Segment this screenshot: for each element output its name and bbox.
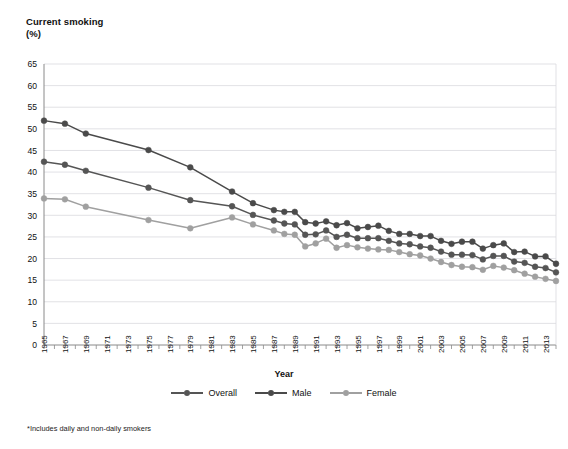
legend-item-female[interactable]: Female xyxy=(330,388,397,398)
data-point-overall xyxy=(229,203,235,209)
series-line-female xyxy=(44,198,556,281)
data-point-female xyxy=(386,247,392,253)
data-point-male xyxy=(229,189,235,195)
data-point-overall xyxy=(428,245,434,251)
data-point-male xyxy=(375,223,381,229)
data-point-male xyxy=(386,228,392,234)
x-tick-label: 2003 xyxy=(437,335,446,353)
x-tick-label: 1979 xyxy=(186,335,195,353)
data-point-overall xyxy=(438,249,444,255)
data-point-overall xyxy=(292,221,298,227)
data-point-overall xyxy=(396,241,402,247)
x-tick-label: 2011 xyxy=(521,335,530,353)
data-point-male xyxy=(438,238,444,244)
data-point-male xyxy=(187,164,193,170)
y-tick-label: 35 xyxy=(27,189,37,199)
x-tick-label: 1999 xyxy=(395,335,404,353)
data-point-female xyxy=(438,259,444,265)
data-point-overall xyxy=(459,252,465,258)
x-tick-label: 1987 xyxy=(270,335,279,353)
data-point-male xyxy=(522,249,528,255)
legend-label: Female xyxy=(367,388,397,398)
data-point-female xyxy=(62,196,68,202)
y-tick-label: 30 xyxy=(27,211,37,221)
data-point-overall xyxy=(532,264,538,270)
data-point-female xyxy=(146,217,152,223)
legend-line-icon xyxy=(349,392,362,394)
data-point-female xyxy=(250,221,256,227)
data-point-overall xyxy=(407,241,413,247)
plot-area: 0510152025303540455055606519651967196919… xyxy=(0,0,568,449)
data-point-female xyxy=(313,241,319,247)
data-point-female xyxy=(459,264,465,270)
data-point-female xyxy=(396,249,402,255)
data-point-overall xyxy=(543,265,549,271)
data-point-overall xyxy=(334,234,340,240)
data-point-overall xyxy=(386,238,392,244)
data-point-male xyxy=(271,207,277,213)
series-line-male xyxy=(44,121,556,264)
data-point-male xyxy=(553,261,559,267)
x-tick-label: 1985 xyxy=(249,335,258,353)
data-point-overall xyxy=(511,259,517,265)
x-tick-label: 1983 xyxy=(228,335,237,353)
data-point-overall xyxy=(302,232,308,238)
data-point-male xyxy=(334,222,340,228)
data-point-overall xyxy=(553,269,559,275)
y-tick-label: 50 xyxy=(27,124,37,134)
data-point-female xyxy=(375,247,381,253)
data-point-male xyxy=(281,209,287,215)
smoking-prevalence-chart: Current smoking (%) 05101520253035404550… xyxy=(0,0,568,449)
data-point-overall xyxy=(41,159,47,165)
data-point-overall xyxy=(490,253,496,259)
data-point-male xyxy=(532,253,538,259)
data-point-male xyxy=(83,131,89,137)
data-point-overall xyxy=(281,221,287,227)
y-tick-label: 25 xyxy=(27,232,37,242)
data-point-male xyxy=(62,121,68,127)
y-tick-label: 20 xyxy=(27,254,37,264)
data-point-male xyxy=(250,200,256,206)
data-point-overall xyxy=(187,197,193,203)
data-point-overall xyxy=(323,228,329,234)
data-point-female xyxy=(271,228,277,234)
data-point-male xyxy=(470,239,476,245)
data-point-male xyxy=(417,233,423,239)
legend-item-overall[interactable]: Overall xyxy=(171,388,237,398)
x-tick-label: 1991 xyxy=(312,335,321,353)
data-point-male xyxy=(396,231,402,237)
data-point-female xyxy=(480,267,486,273)
x-tick-label: 2005 xyxy=(458,335,467,353)
data-point-male xyxy=(480,246,486,252)
data-point-male xyxy=(313,221,319,227)
chart-footnote: *Includes daily and non-daily smokers xyxy=(27,424,151,433)
data-point-female xyxy=(553,278,559,284)
x-tick-label: 1977 xyxy=(166,335,175,353)
data-point-overall xyxy=(417,244,423,250)
data-point-female xyxy=(334,245,340,251)
data-point-female xyxy=(302,244,308,250)
data-point-female xyxy=(187,225,193,231)
y-tick-label: 55 xyxy=(27,102,37,112)
data-point-female xyxy=(407,251,413,257)
y-tick-label: 5 xyxy=(32,319,37,329)
x-axis-title: Year xyxy=(0,369,568,379)
legend-item-male[interactable]: Male xyxy=(255,388,312,398)
data-point-male xyxy=(146,147,152,153)
x-tick-label: 1967 xyxy=(61,335,70,353)
data-point-male xyxy=(302,219,308,225)
x-tick-label: 1975 xyxy=(145,335,154,353)
y-tick-label: 65 xyxy=(27,59,37,69)
x-tick-label: 2007 xyxy=(479,335,488,353)
y-tick-label: 0 xyxy=(32,340,37,350)
legend-label: Overall xyxy=(208,388,237,398)
x-tick-label: 2013 xyxy=(542,335,551,353)
y-tick-label: 10 xyxy=(27,297,37,307)
data-point-male xyxy=(459,239,465,245)
data-point-overall xyxy=(449,252,455,258)
x-tick-label: 1973 xyxy=(124,335,133,353)
data-point-overall xyxy=(470,252,476,258)
data-point-male xyxy=(292,209,298,215)
data-point-male xyxy=(511,249,517,255)
data-point-overall xyxy=(375,235,381,241)
